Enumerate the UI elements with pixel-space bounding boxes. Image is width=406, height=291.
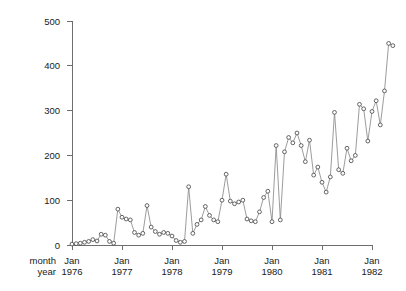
timeseries-chart: 0100200300400500 Jan1976Jan1977Jan1978Ja… xyxy=(0,0,406,291)
data-point-marker xyxy=(295,131,299,135)
data-point-marker xyxy=(253,220,257,224)
data-point-marker xyxy=(291,141,295,145)
y-tick-label: 500 xyxy=(44,16,60,27)
x-axis-year-caption: year xyxy=(38,266,56,277)
x-tick-year-label: 1976 xyxy=(61,266,82,277)
data-point-marker xyxy=(320,180,324,184)
data-point-marker xyxy=(353,154,357,158)
data-point-marker xyxy=(108,240,112,244)
y-tick-label: 400 xyxy=(44,60,60,71)
data-point-marker xyxy=(70,242,74,246)
data-point-marker xyxy=(245,217,249,221)
x-tick-year-label: 1979 xyxy=(211,266,232,277)
x-tick-month-label: Jan xyxy=(264,255,279,266)
data-point-marker xyxy=(74,242,78,246)
data-point-marker xyxy=(287,136,291,140)
data-point-marker xyxy=(370,110,374,114)
data-point-marker xyxy=(262,196,266,200)
y-tick-label: 100 xyxy=(44,195,60,206)
data-point-marker xyxy=(249,219,253,223)
data-point-marker xyxy=(133,231,137,235)
data-point-marker xyxy=(103,233,107,237)
data-point-marker xyxy=(208,214,212,218)
data-point-marker xyxy=(391,44,395,48)
data-point-marker xyxy=(374,99,378,103)
data-point-marker xyxy=(95,239,99,243)
data-point-marker xyxy=(308,138,312,142)
data-point-marker xyxy=(337,168,341,172)
series-polyline xyxy=(72,43,393,244)
data-point-marker xyxy=(303,160,307,164)
data-point-marker xyxy=(178,240,182,244)
x-tick-month-label: Jan xyxy=(364,255,379,266)
data-point-marker xyxy=(124,217,128,221)
x-tick-month-label: Jan xyxy=(114,255,129,266)
y-tick-label: 300 xyxy=(44,105,60,116)
x-tick-year-label: 1977 xyxy=(111,266,132,277)
data-point-marker xyxy=(237,200,241,204)
y-tick-label: 0 xyxy=(55,240,60,251)
data-point-marker xyxy=(87,240,91,244)
x-tick-year-label: 1978 xyxy=(161,266,182,277)
data-point-marker xyxy=(216,220,220,224)
data-point-marker xyxy=(183,240,187,244)
chart-page: 0100200300400500 Jan1976Jan1977Jan1978Ja… xyxy=(0,0,406,291)
data-point-marker xyxy=(99,232,103,236)
data-point-marker xyxy=(162,231,166,235)
data-point-marker xyxy=(128,218,132,222)
x-axis-month-caption: month xyxy=(30,255,56,266)
y-axis: 0100200300400500 xyxy=(44,16,72,251)
x-tick-year-label: 1981 xyxy=(311,266,332,277)
data-point-marker xyxy=(149,225,153,229)
data-point-marker xyxy=(362,107,366,111)
data-point-marker xyxy=(341,171,345,175)
data-point-marker xyxy=(241,198,245,202)
data-point-marker xyxy=(333,110,337,114)
data-point-marker xyxy=(199,218,203,222)
x-tick-month-label: Jan xyxy=(214,255,229,266)
data-point-marker xyxy=(187,185,191,189)
data-point-marker xyxy=(387,42,391,46)
data-point-marker xyxy=(266,189,270,193)
data-point-marker xyxy=(312,173,316,177)
data-point-marker xyxy=(274,144,278,148)
data-point-marker xyxy=(270,220,274,224)
data-point-marker xyxy=(174,239,178,243)
data-point-marker xyxy=(145,204,149,208)
data-point-marker xyxy=(378,123,382,127)
data-point-marker xyxy=(324,190,328,194)
data-point-marker xyxy=(233,202,237,206)
data-point-marker xyxy=(120,215,124,219)
data-point-marker xyxy=(283,150,287,154)
data-point-marker xyxy=(345,146,349,150)
data-point-marker xyxy=(258,210,262,214)
data-point-marker xyxy=(203,205,207,209)
data-point-marker xyxy=(166,231,170,235)
data-point-marker xyxy=(278,218,282,222)
data-point-marker xyxy=(212,218,216,222)
x-axis: Jan1976Jan1977Jan1978Jan1979Jan1980Jan19… xyxy=(30,245,383,277)
y-tick-label: 200 xyxy=(44,150,60,161)
data-point-marker xyxy=(170,234,174,238)
data-point-marker xyxy=(383,89,387,93)
data-series xyxy=(70,42,395,247)
data-point-marker xyxy=(358,102,362,106)
data-point-marker xyxy=(112,241,116,245)
x-tick-month-label: Jan xyxy=(314,255,329,266)
data-point-marker xyxy=(78,241,82,245)
data-point-marker xyxy=(158,232,162,236)
data-point-marker xyxy=(316,165,320,169)
data-point-marker xyxy=(141,231,145,235)
data-point-marker xyxy=(224,172,228,176)
x-tick-year-label: 1982 xyxy=(361,266,382,277)
data-point-marker xyxy=(91,238,95,242)
x-tick-year-label: 1980 xyxy=(261,266,282,277)
x-tick-month-label: Jan xyxy=(164,255,179,266)
data-point-marker xyxy=(228,199,232,203)
data-point-marker xyxy=(366,139,370,143)
data-point-marker xyxy=(83,240,87,244)
data-point-marker xyxy=(299,144,303,148)
data-point-marker xyxy=(191,231,195,235)
data-point-marker xyxy=(195,222,199,226)
data-point-marker xyxy=(116,207,120,211)
